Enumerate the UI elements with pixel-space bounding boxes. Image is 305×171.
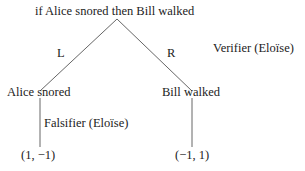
left-node-player-label: Falsifier (Eloïse) (44, 117, 128, 130)
root-player-label: Verifier (Eloïse) (213, 42, 294, 55)
right-payoff: (−1, 1) (175, 149, 209, 162)
edge-right-label: R (167, 47, 175, 60)
left-node-label: Alice snored (7, 86, 71, 99)
root-node-label: if Alice snored then Bill walked (35, 5, 194, 18)
edge-right (117, 19, 192, 91)
left-payoff: (1, −1) (21, 149, 55, 162)
edge-left-label: L (57, 47, 65, 60)
right-node-label: Bill walked (162, 86, 220, 99)
edge-left (40, 19, 117, 91)
